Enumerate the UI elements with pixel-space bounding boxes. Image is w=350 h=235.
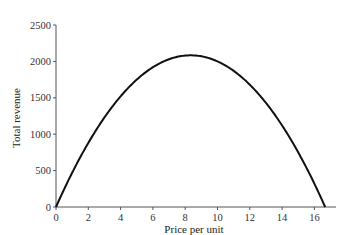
x-tick-label: 2: [86, 212, 91, 223]
x-tick-label: 10: [212, 212, 223, 223]
x-axis: 0246810121416: [53, 207, 336, 223]
revenue-chart: 05001000150020002500 0246810121416 Price…: [0, 0, 350, 235]
x-tick-label: 14: [277, 212, 288, 223]
revenue-curve: [56, 55, 325, 207]
x-tick-label: 4: [118, 212, 124, 223]
x-tick-label: 8: [183, 212, 188, 223]
y-tick-label: 500: [35, 165, 51, 176]
x-tick-label: 12: [245, 212, 256, 223]
y-tick-label: 2500: [30, 20, 51, 31]
y-axis-title: Total revenue: [10, 88, 22, 148]
y-tick-label: 1500: [30, 92, 51, 103]
y-tick-label: 1000: [30, 129, 51, 140]
y-axis: 05001000150020002500: [30, 20, 56, 213]
x-tick-label: 16: [309, 212, 320, 223]
x-tick-label: 6: [150, 212, 155, 223]
y-tick-label: 0: [46, 202, 51, 213]
y-tick-label: 2000: [30, 56, 51, 67]
x-axis-title: Price per unit: [164, 223, 223, 235]
x-tick-label: 0: [53, 212, 58, 223]
